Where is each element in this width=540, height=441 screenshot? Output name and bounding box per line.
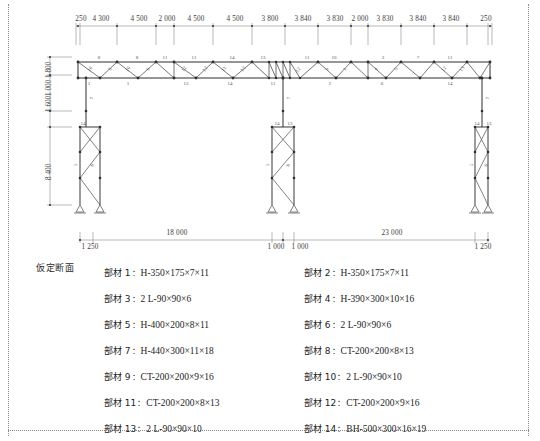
middle-column-bracing [272,127,294,205]
top-dim-3: 2 000 [158,15,175,23]
truss-num-bot-4: 11 [271,81,276,86]
member-entry-6: 部材 6：2 L-90×90×6 [304,318,504,331]
truss-num-bot-0: 1 [88,81,91,86]
member-entry-11: 部材 11：CT-200×200×8×13 [104,396,304,409]
member-no-11: 部材 11 [104,398,136,408]
top-dim-11: 3 840 [409,15,426,23]
member-entry-7: 部材 7：H-440×300×11×18 [104,344,304,357]
truss-num-bot-6: 6 [381,81,384,86]
member-spec-6: 2 L-90×90×6 [341,320,392,330]
truss-num-top-2: 11 [163,55,168,60]
member-list-row: 部材 11：CT-200×200×8×13 部材 12：CT-200×200×9… [104,389,524,415]
truss-num-top-4: 14 [230,55,235,60]
member-no-8: 部材 8 [304,346,331,356]
top-dim-12: 3 840 [442,15,459,23]
member-entry-4: 部材 4：H-390×300×10×16 [304,292,504,305]
bottom-tick-2: 1 000 [291,243,308,251]
bottom-tick-1: 1 000 [267,243,284,251]
truss-num-top-1: 8 [136,55,139,60]
top-dim-5: 4 500 [226,15,243,23]
right-col-num-3: 14 [475,121,480,126]
truss-num-bot-1: 1 [127,81,130,86]
member-entry-2: 部材 2：H-350×175×7×11 [304,266,504,279]
truss-num-top-7: 10 [332,55,337,60]
member-entry-10: 部材 10：2 L-90×90×10 [304,370,504,383]
member-entry-12: 部材 12：CT-200×200×9×16 [304,396,504,409]
member-spec-11: CT-200×200×8×13 [146,398,219,408]
member-no-5: 部材 5 [104,320,131,330]
member-no-6: 部材 6 [304,320,331,330]
top-dim-6: 3 800 [261,15,278,23]
truss-num-top-10: 11 [448,55,453,60]
truss-num-bot-3: 14 [228,81,233,86]
member-spec-7: H-440×300×11×18 [141,346,214,356]
left-dim-3: 8 400 [45,164,53,180]
member-spec-1: H-350×175×7×11 [141,268,210,278]
top-dim-13: 250 [480,15,491,23]
middle-column-pin-supports [266,205,300,213]
member-specification-list: 部材 1：H-350×175×7×11 部材 2：H-350×175×7×11 … [104,259,524,441]
member-list-row: 部材 5：H-400×200×8×11 部材 6：2 L-90×90×6 [104,311,524,337]
member-list-row: 部材 13：2 L-90×90×10 部材 14：BH-500×300×16×1… [104,415,524,441]
top-dim-2: 4 500 [130,15,147,23]
middle-column-lattice [272,127,294,205]
member-list-row: 部材 9：CT-200×200×9×16 部材 10：2 L-90×90×10 [104,363,524,389]
member-entry-5: 部材 5：H-400×200×8×11 [104,318,304,331]
left-col-num-1: 5 [73,164,78,167]
top-dim-8: 3 830 [326,15,343,23]
member-no-10: 部材 10 [304,372,336,382]
member-spec-10: 2 L-90×90×10 [346,372,401,382]
right-column-pin-supports [469,205,494,213]
member-list-row: 部材 1：H-350×175×7×11 部材 2：H-350×175×7×11 [104,259,524,285]
bottom-tick-0: 1 250 [81,243,98,251]
top-dim-1: 4 300 [92,15,109,23]
truss-num-top-9: 7 [417,55,420,60]
mid-col-num-1: 5 [265,164,270,167]
right-col-num-1: 5 [469,164,474,167]
member-no-2: 部材 2 [304,268,331,278]
member-spec-4: H-390×300×10×16 [341,294,415,304]
truss-num-top-6: 11 [305,55,310,60]
bottom-tick-3: 1 250 [474,243,491,251]
truss-num-bot-5: 2 [329,81,332,86]
top-dim-9: 2 000 [351,15,368,23]
bottom-span-0: 18 000 [167,229,188,237]
member-no-14: 部材 14 [304,424,336,434]
truss-num-bot-2: 13 [184,81,189,86]
member-no-3: 部材 3 [104,294,131,304]
top-dim-4: 4 500 [187,15,204,23]
member-spec-14: BH-500×300×16×19 [346,424,426,434]
member-list-row: 部材 3：2 L-90×90×6 部材 4：H-390×300×10×16 [104,285,524,311]
member-no-13: 部材 13 [104,424,136,434]
left-column-lattice [80,127,100,205]
truss-num-bot-7: 14 [448,81,453,86]
left-column-bracing [80,127,100,205]
member-entry-1: 部材 1：H-350×175×7×11 [104,266,304,279]
member-no-1: 部材 1 [104,268,131,278]
mid-col-num-0: 7 [286,97,291,100]
member-entry-13: 部材 13：2 L-90×90×10 [104,422,304,435]
truss-web-middle-knee [252,62,318,78]
truss-num-top-3: 11 [192,55,197,60]
member-entry-14: 部材 14：BH-500×300×16×19 [304,422,504,435]
drawing-page: 250 4 300 4 500 2 000 4 500 4 500 3 800 … [0,0,540,441]
member-spec-2: H-350×175×7×11 [341,268,410,278]
member-spec-13: 2 L-90×90×10 [146,424,201,434]
member-spec-3: 2 L-90×90×6 [141,294,192,304]
left-col-num-3: 14 [81,121,86,126]
member-entry-3: 部材 3：2 L-90×90×6 [104,292,304,305]
bottom-dimension-line [80,232,488,243]
member-no-7: 部材 7 [104,346,131,356]
top-dim-10: 3 830 [376,15,393,23]
section-assumption-label: 仮定断面 [36,261,74,274]
truss-num-top-8: 3 [382,55,385,60]
right-col-num-0: 7 [485,97,490,100]
truss-num-top-0: 8 [98,55,101,60]
left-col-num-0: 7 [89,97,94,100]
left-dim-1: 1 600 [45,96,53,112]
mid-col-num-4: 13 [288,121,293,126]
member-entry-8: 部材 8：CT-200×200×8×13 [304,344,504,357]
member-no-4: 部材 4 [304,294,331,304]
member-list-row: 部材 7：H-440×300×11×18 部材 8：CT-200×200×8×1… [104,337,524,363]
mid-col-num-3: 14 [275,121,280,126]
